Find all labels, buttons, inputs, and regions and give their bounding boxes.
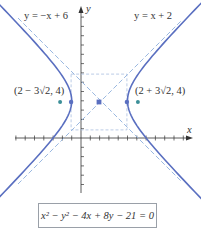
asymptote-label-left-text: y = −x + 6 bbox=[24, 10, 68, 21]
x-axis-label: x bbox=[187, 125, 192, 136]
equation-box: x² − y² − 4x + 8y − 21 = 0 bbox=[38, 203, 157, 228]
asymptote-label-right-text: y = x + 2 bbox=[134, 10, 172, 21]
focus-right-point bbox=[136, 100, 140, 104]
focus-label-left: (2 − 3√2, 4) bbox=[14, 86, 64, 97]
center-point bbox=[97, 100, 102, 105]
y-axis bbox=[79, 6, 85, 193]
vertex-right-point bbox=[125, 100, 129, 104]
y-axis-label: y bbox=[86, 4, 91, 15]
equation-text: x² − y² − 4x + 8y − 21 = 0 bbox=[41, 210, 154, 221]
focus-left-point bbox=[58, 100, 62, 104]
x-axis bbox=[15, 136, 193, 141]
asymptote-label-right: y = x + 2 bbox=[134, 11, 172, 22]
asymptote-label-left: y = −x + 6 bbox=[24, 11, 68, 22]
vertex-left-point bbox=[69, 100, 73, 104]
hyperbola-diagram bbox=[0, 0, 201, 233]
hyperbola-left-branch bbox=[0, 0, 72, 233]
focus-label-right: (2 + 3√2, 4) bbox=[135, 86, 185, 97]
hyperbola-right-branch bbox=[128, 0, 202, 233]
asymptote-y-eq-neg-x-plus-6 bbox=[18, 18, 181, 181]
